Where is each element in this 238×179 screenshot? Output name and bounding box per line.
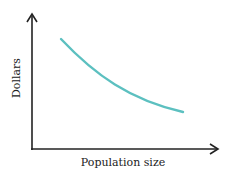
x-axis-label: Population size	[81, 156, 165, 169]
chart: Dollars Population size	[0, 0, 238, 179]
y-axis-label: Dollars	[10, 58, 23, 98]
data-curve	[61, 39, 183, 112]
